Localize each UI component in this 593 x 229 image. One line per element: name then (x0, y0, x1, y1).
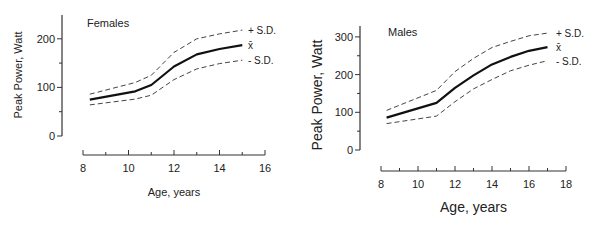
x-tick-label: 16 (523, 178, 535, 190)
x-tick-label: 8 (378, 178, 384, 190)
x-tick-label: 14 (486, 178, 498, 190)
y-tick-label: 300 (335, 31, 353, 43)
series-line-plus-sd (387, 33, 548, 110)
x-tick-label: 16 (259, 162, 271, 174)
chart-canvas: 0100200810121416Age, yearsPeak Power, Wa… (0, 0, 593, 229)
series-line-mean (90, 45, 243, 100)
y-tick-label: 0 (347, 144, 353, 156)
series-line-mean (387, 47, 548, 118)
series-label: + S.D. (556, 28, 584, 39)
series-line-minus-sd (90, 60, 243, 105)
x-axis-label: Age, years (148, 186, 201, 198)
series-label: + S.D. (248, 25, 276, 36)
series-line-minus-sd (387, 61, 548, 124)
x-tick-label: 14 (213, 162, 225, 174)
series-label: - S.D. (248, 55, 274, 66)
chart-females: 0100200810121416Age, yearsPeak Power, Wa… (12, 15, 276, 198)
x-axis-label: Age, years (440, 199, 507, 215)
chart-males: 010020030081012141618Age, yearsPeak Powe… (309, 26, 584, 215)
x-tick-label: 10 (412, 178, 424, 190)
series-label: x̄ (556, 42, 561, 53)
x-tick-label: 8 (80, 162, 86, 174)
y-tick-label: 200 (37, 33, 55, 45)
y-axis-label: Peak Power, Watt (309, 40, 325, 151)
x-tick-label: 12 (168, 162, 180, 174)
series-label: x̄ (248, 40, 253, 51)
y-tick-label: 100 (335, 106, 353, 118)
y-tick-label: 0 (49, 130, 55, 142)
y-tick-label: 200 (335, 69, 353, 81)
x-tick-label: 18 (560, 178, 572, 190)
chart-title: Males (388, 26, 418, 38)
x-tick-label: 10 (122, 162, 134, 174)
x-tick-label: 12 (449, 178, 461, 190)
y-axis-label: Peak Power, Watt (12, 31, 24, 118)
chart-title: Females (87, 17, 130, 29)
y-tick-label: 100 (37, 81, 55, 93)
series-label: - S.D. (556, 56, 582, 67)
